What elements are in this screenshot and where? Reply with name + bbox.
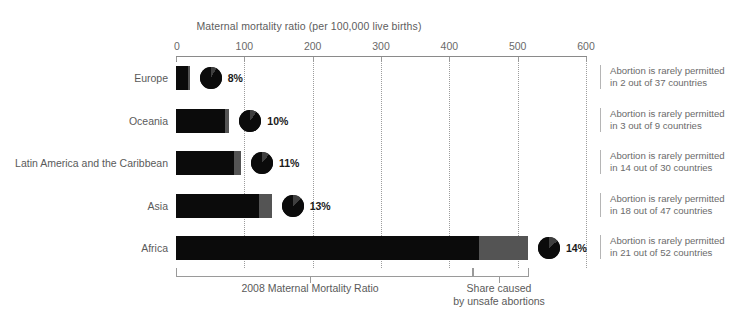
annotation-line-1: Abortion is rarely permitted [610, 235, 742, 247]
chart-title: Maternal mortality ratio (per 100,000 li… [0, 20, 680, 32]
bracket-mmr [176, 268, 474, 277]
annotation-line-2: in 3 out of 9 countries [610, 120, 742, 132]
x-tick-label-400: 400 [441, 40, 459, 52]
annotation-line-1: Abortion is rarely permitted [610, 150, 742, 162]
category-label-oceania: Oceania [0, 115, 168, 127]
bar-segment-unsafe-abortions [225, 109, 229, 133]
bar-segment-unsafe-abortions [188, 66, 189, 90]
x-tick-label-200: 200 [304, 40, 322, 52]
chart-root: Maternal mortality ratio (per 100,000 li… [0, 0, 742, 326]
bar-africa [176, 236, 528, 260]
x-tick-label-300: 300 [372, 40, 390, 52]
footer-right-caption-line1: Share caused [453, 282, 545, 295]
annotation-line-2: in 21 out of 52 countries [610, 247, 742, 259]
bar-latin-america-and-the-caribbean [176, 151, 241, 175]
footer-right-caption: Share caused by unsafe abortions [453, 282, 545, 307]
annotation-line-2: in 14 out of 30 countries [610, 162, 742, 174]
x-tick-label-500: 500 [509, 40, 527, 52]
pie-marker-oceania [239, 110, 261, 132]
bar-segment-unsafe-abortions [479, 236, 528, 260]
annotation-note-africa: Abortion is rarely permittedin 21 out of… [600, 235, 742, 259]
pie-marker-asia [282, 195, 304, 217]
x-tick-mark-0 [176, 57, 177, 61]
pie-percent-label-oceania: 10% [267, 115, 288, 127]
annotation-line-2: in 2 out of 37 countries [610, 77, 742, 89]
pie-marker-europe [200, 67, 222, 89]
bar-europe [176, 66, 190, 90]
annotation-note-europe: Abortion is rarely permittedin 2 out of … [600, 65, 742, 89]
x-tick-label-0: 0 [174, 40, 180, 52]
pie-marker-latin-america-and-the-caribbean [251, 152, 273, 174]
annotation-line-1: Abortion is rarely permitted [610, 65, 742, 77]
pie-wedge [251, 152, 273, 174]
bracket-unsafe-share [472, 268, 529, 277]
bar-asia [176, 194, 272, 218]
bar-segment-unsafe-abortions [259, 194, 271, 218]
pie-wedge [239, 110, 261, 132]
annotation-note-asia: Abortion is rarely permittedin 18 out of… [600, 193, 742, 217]
annotation-note-oceania: Abortion is rarely permittedin 3 out of … [600, 108, 742, 132]
pie-wedge [282, 195, 304, 217]
footer-right-caption-line2: by unsafe abortions [453, 295, 545, 308]
bar-segment-mmr [176, 194, 259, 218]
bar-segment-mmr [176, 151, 234, 175]
pie-percent-label-europe: 8% [228, 72, 243, 84]
annotation-line-1: Abortion is rarely permitted [610, 193, 742, 205]
annotation-note-latin-america-and-the-caribbean: Abortion is rarely permittedin 14 out of… [600, 150, 742, 174]
pie-wedge [538, 237, 560, 259]
category-label-africa: Africa [0, 242, 168, 254]
annotation-line-1: Abortion is rarely permitted [610, 108, 742, 120]
pie-wedge [200, 67, 222, 89]
bar-segment-mmr [176, 236, 479, 260]
category-label-latin-america-and-the-caribbean: Latin America and the Caribbean [0, 157, 168, 169]
footer-left-caption: 2008 Maternal Mortality Ratio [241, 282, 378, 295]
bar-segment-mmr [176, 66, 188, 90]
x-tick-label-600: 600 [577, 40, 595, 52]
x-tick-label-100: 100 [236, 40, 254, 52]
pie-percent-label-africa: 14% [566, 242, 587, 254]
bar-segment-unsafe-abortions [234, 151, 241, 175]
annotation-line-2: in 18 out of 47 countries [610, 205, 742, 217]
bar-oceania [176, 109, 229, 133]
gridline-600 [586, 57, 588, 268]
bar-segment-mmr [176, 109, 225, 133]
category-label-europe: Europe [0, 72, 168, 84]
pie-percent-label-asia: 13% [310, 200, 331, 212]
pie-percent-label-latin-america-and-the-caribbean: 11% [279, 157, 299, 169]
category-label-asia: Asia [0, 200, 168, 212]
pie-marker-africa [538, 237, 560, 259]
